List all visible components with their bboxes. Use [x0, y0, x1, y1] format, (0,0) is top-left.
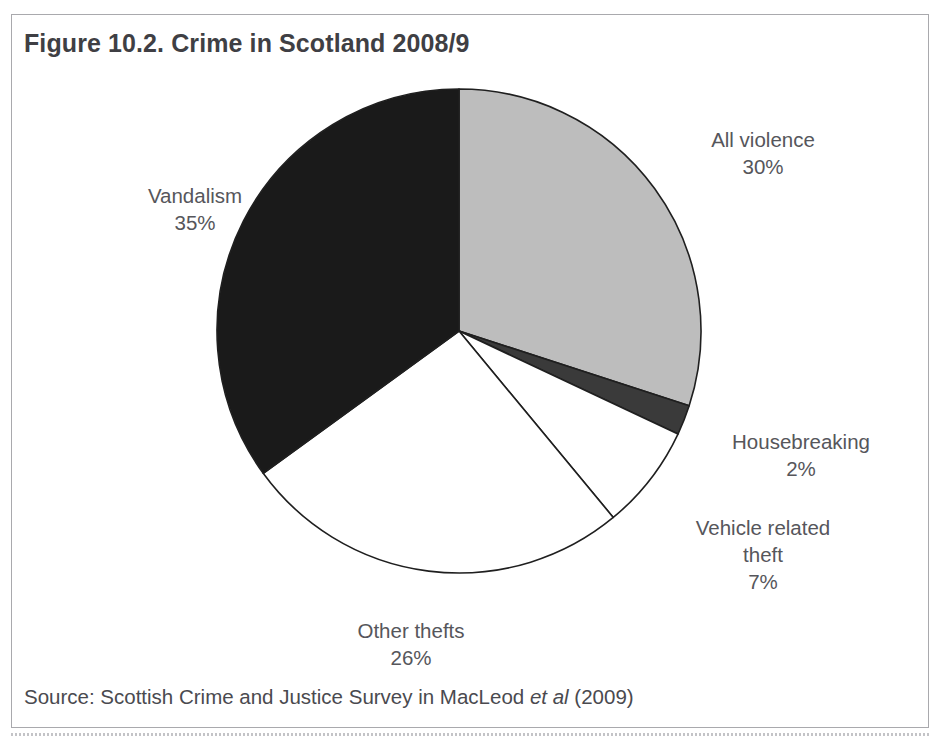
- pie-chart: All violence 30% Vandalism 35% Housebrea…: [11, 14, 929, 728]
- slice-label-vehicle-related-theft-name: Vehicle related: [663, 514, 863, 541]
- bottom-dotted-rule: [11, 733, 929, 736]
- source-note-suffix: (2009): [569, 685, 634, 708]
- slice-label-vandalism-name: Vandalism: [95, 182, 295, 209]
- slice-label-vandalism-value: 35%: [95, 209, 295, 236]
- slice-label-vehicle-related-theft-name2: theft: [663, 541, 863, 568]
- slice-label-housebreaking: Housebreaking 2%: [701, 428, 901, 482]
- slice-label-vehicle-related-theft: Vehicle related theft 7%: [663, 514, 863, 595]
- source-note-prefix: Source: Scottish Crime and Justice Surve…: [24, 685, 530, 708]
- slice-label-other-thefts: Other thefts 26%: [311, 617, 511, 671]
- slice-label-vehicle-related-theft-value: 7%: [663, 568, 863, 595]
- slice-label-other-thefts-name: Other thefts: [311, 617, 511, 644]
- pie-slice-group: [217, 89, 701, 573]
- slice-label-all-violence-value: 30%: [663, 153, 863, 180]
- slice-label-other-thefts-value: 26%: [311, 644, 511, 671]
- slice-label-all-violence-name: All violence: [663, 126, 863, 153]
- slice-label-vandalism: Vandalism 35%: [95, 182, 295, 236]
- source-note-et-al: et al: [530, 685, 569, 708]
- slice-label-all-violence: All violence 30%: [663, 126, 863, 180]
- slice-label-housebreaking-name: Housebreaking: [701, 428, 901, 455]
- slice-label-housebreaking-value: 2%: [701, 455, 901, 482]
- source-note: Source: Scottish Crime and Justice Surve…: [24, 685, 634, 709]
